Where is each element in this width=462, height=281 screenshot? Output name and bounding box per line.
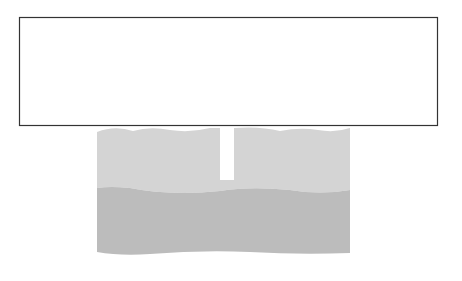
clay-layer: [97, 187, 350, 255]
diagram-canvas: [0, 0, 462, 281]
